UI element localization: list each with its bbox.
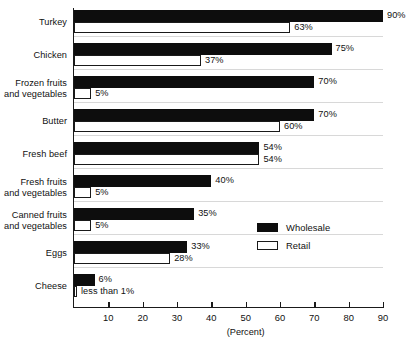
bar-value-wholesale: 75% <box>336 43 355 55</box>
bar-value-retail: 5% <box>95 88 108 100</box>
x-tick-label: 40 <box>206 312 216 323</box>
x-tick-label: 80 <box>343 312 353 323</box>
bar-value-retail: 54% <box>263 154 282 166</box>
category-label: Turkey <box>0 17 67 27</box>
category-label: Butter <box>0 116 67 126</box>
bar-wholesale <box>74 109 314 121</box>
category-label: Chicken <box>0 50 67 60</box>
x-tick <box>280 302 281 308</box>
bar-value-retail: 63% <box>294 22 313 34</box>
x-tick-label: 30 <box>172 312 182 323</box>
bar-value-retail: 28% <box>174 253 193 265</box>
bar-value-retail: 37% <box>205 55 224 67</box>
legend-entry-wholesale: Wholesale <box>257 220 330 235</box>
bar-retail <box>74 121 280 133</box>
bar-value-wholesale: 70% <box>318 76 337 88</box>
bar-value-wholesale: 70% <box>318 109 337 121</box>
category-label: Fresh fruits and vegetables <box>0 177 67 198</box>
category-label: Canned fruits and vegetables <box>0 210 67 231</box>
bar-wholesale <box>74 76 314 88</box>
bar-value-wholesale: 54% <box>263 142 282 154</box>
bar-retail <box>74 253 170 265</box>
x-axis-caption: (Percent) <box>227 327 265 337</box>
x-tick <box>383 302 384 308</box>
category-label: Cheese <box>0 281 67 291</box>
bar-retail <box>74 154 259 166</box>
row-separator <box>74 168 383 169</box>
row-separator <box>74 102 383 103</box>
chart-legend: Wholesale Retail <box>257 220 330 256</box>
x-tick <box>314 302 315 308</box>
row-separator <box>74 201 383 202</box>
bar-wholesale <box>74 10 383 22</box>
legend-label-retail: Retail <box>286 240 310 251</box>
x-tick <box>177 302 178 308</box>
bar-wholesale <box>74 142 259 154</box>
x-tick-label: 70 <box>309 312 319 323</box>
x-tick <box>108 302 109 308</box>
bar-wholesale <box>74 208 194 220</box>
bar-retail <box>74 88 91 100</box>
category-label: Eggs <box>0 248 67 258</box>
row-separator <box>74 267 383 268</box>
bar-value-wholesale: 40% <box>215 175 234 187</box>
x-tick <box>211 302 212 308</box>
bar-wholesale <box>74 241 187 253</box>
x-tick-label: 10 <box>103 312 113 323</box>
x-tick-label: 90 <box>378 312 388 323</box>
legend-swatch-wholesale <box>257 223 278 233</box>
legend-label-wholesale: Wholesale <box>286 222 330 233</box>
bar-value-retail: less than 1% <box>81 286 134 298</box>
category-label: Fresh beef <box>0 149 67 159</box>
x-tick <box>349 302 350 308</box>
bar-wholesale <box>74 175 211 187</box>
bar-value-retail: 5% <box>95 220 108 232</box>
x-tick-label: 60 <box>275 312 285 323</box>
legend-entry-retail: Retail <box>257 238 330 253</box>
bar-value-wholesale: 33% <box>191 241 210 253</box>
bar-chart: 102030405060708090 (Percent) Wholesale R… <box>0 0 408 348</box>
row-separator <box>74 36 383 37</box>
bar-value-wholesale: 35% <box>198 208 217 220</box>
bar-value-retail: 5% <box>95 187 108 199</box>
legend-swatch-retail <box>257 241 278 251</box>
bar-wholesale <box>74 274 95 286</box>
category-label: Frozen fruits and vegetables <box>0 78 67 99</box>
bar-value-retail: 60% <box>284 121 303 133</box>
x-tick <box>246 302 247 308</box>
row-separator <box>74 135 383 136</box>
row-separator <box>74 69 383 70</box>
bar-retail <box>74 286 77 298</box>
bar-wholesale <box>74 43 332 55</box>
bar-value-wholesale: 90% <box>387 10 406 22</box>
bar-value-wholesale: 6% <box>99 274 112 286</box>
x-tick-label: 20 <box>137 312 147 323</box>
bar-retail <box>74 55 201 67</box>
bar-retail <box>74 220 91 232</box>
row-separator <box>74 234 383 235</box>
bar-retail <box>74 22 290 34</box>
x-tick-label: 50 <box>240 312 250 323</box>
bar-retail <box>74 187 91 199</box>
x-tick <box>143 302 144 308</box>
